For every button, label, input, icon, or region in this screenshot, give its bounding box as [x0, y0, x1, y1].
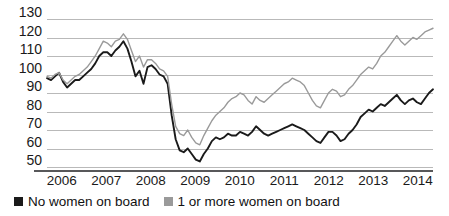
legend-swatch-icon-0 — [14, 197, 23, 206]
x-tick-label-2011: 2011 — [259, 174, 309, 188]
legend-label-1: 1 or more women on board — [178, 195, 340, 209]
series-line-no-women-on-board — [47, 41, 433, 161]
x-tick-label-2007: 2007 — [81, 174, 131, 188]
legend-entry-1[interactable]: 1 or more women on board — [164, 195, 340, 209]
x-tick-label-2008: 2008 — [126, 174, 176, 188]
x-tick-label-2014: 2014 — [393, 174, 443, 188]
series-line-1-or-more-women-on-board — [47, 28, 433, 145]
line-chart-figure: 1301201101009080706050 20062007200820092… — [0, 0, 449, 216]
legend-swatch-icon-1 — [164, 197, 173, 206]
x-tick-label-2009: 2009 — [170, 174, 220, 188]
x-axis-tick-labels: 200620072008200920102011201220132014 — [0, 174, 449, 194]
x-tick-label-2012: 2012 — [304, 174, 354, 188]
legend-entry-0[interactable]: No women on board — [14, 195, 150, 209]
x-tick-label-2006: 2006 — [37, 174, 87, 188]
x-tick-label-2010: 2010 — [215, 174, 265, 188]
x-tick-label-2013: 2013 — [348, 174, 398, 188]
legend-label-0: No women on board — [28, 195, 150, 209]
chart-legend: No women on board1 or more women on boar… — [14, 195, 340, 209]
